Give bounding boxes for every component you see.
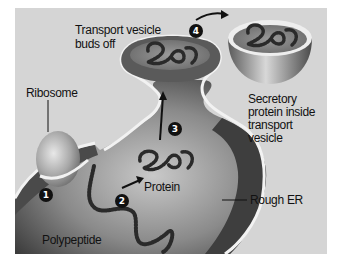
step-badge-2: 2	[115, 194, 129, 208]
step-badge-4: 4	[189, 24, 203, 38]
arrow-step-4	[196, 13, 224, 20]
step-badge-1: 1	[39, 188, 53, 202]
label-ribosome: Ribosome	[26, 86, 78, 100]
label-protein: Protein	[144, 180, 180, 194]
label-rough-er: Rough ER	[250, 193, 303, 207]
label-line: buds off	[75, 37, 161, 51]
label-line: Transport vesicle	[75, 23, 161, 37]
label-polypeptide: Polypeptide	[42, 233, 101, 247]
step-badge-3: 3	[168, 122, 182, 136]
label-transport-vesicle-buds-off: Transport vesicle buds off	[75, 23, 161, 51]
label-secretory-protein: Secretory protein inside transport vesic…	[248, 93, 315, 145]
label-line: vesicle	[248, 132, 315, 145]
